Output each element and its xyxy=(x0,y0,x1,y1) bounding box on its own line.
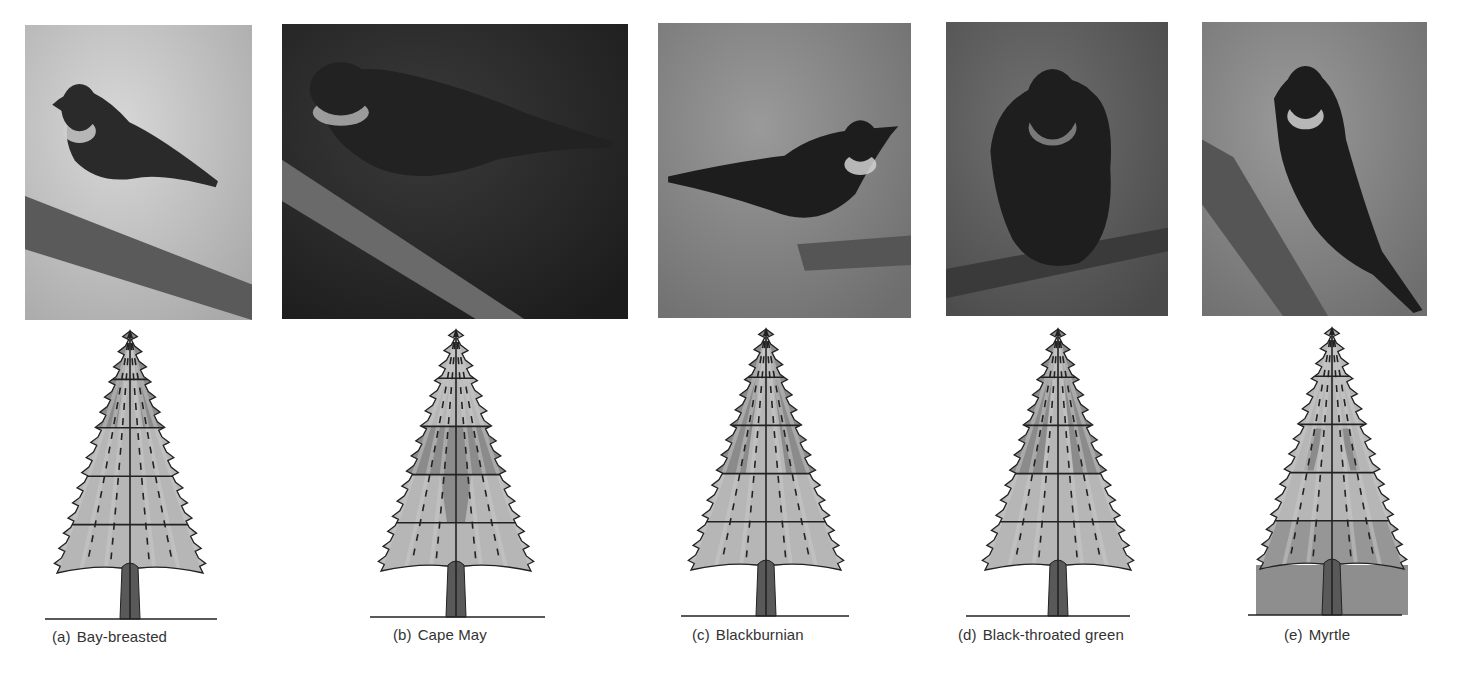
panel-letter: (c) xyxy=(692,626,710,643)
species-name: Bay-breasted xyxy=(77,628,167,645)
warbler-photo-d xyxy=(946,22,1168,316)
panel-letter: (b) xyxy=(393,626,412,643)
feeding-zone-shading xyxy=(371,340,541,571)
height-zone-lines xyxy=(47,379,213,524)
height-zone-lines xyxy=(975,377,1141,522)
panel-b-label: (b)Cape May xyxy=(393,626,487,643)
panel-letter: (a) xyxy=(52,628,71,645)
feeding-zone-shading xyxy=(681,329,851,570)
panel-c-label: (c)Blackburnian xyxy=(692,626,804,643)
feeding-zone-shading xyxy=(1250,338,1414,569)
feeding-zone-shading xyxy=(975,329,1141,570)
panel-letter: (e) xyxy=(1284,626,1303,643)
trunk xyxy=(1048,560,1068,616)
trunk xyxy=(1322,559,1342,615)
panel-letter: (d) xyxy=(958,626,977,643)
trunk xyxy=(756,560,776,616)
panel-e-label: (e)Myrtle xyxy=(1284,626,1350,643)
warbler-photo-c xyxy=(658,23,911,318)
species-name: Myrtle xyxy=(1309,626,1350,643)
panel-a-label: (a)Bay-breasted xyxy=(52,628,167,645)
trunk xyxy=(120,563,140,619)
trunk xyxy=(446,561,466,617)
panel-d-label: (d)Black-throated green xyxy=(958,626,1124,643)
warbler-photo-e xyxy=(1202,22,1427,316)
height-zone-lines xyxy=(371,378,541,523)
feeding-zone-shading xyxy=(47,331,213,573)
height-zone-lines xyxy=(1250,376,1414,521)
height-zone-lines xyxy=(681,377,851,522)
warbler-photo-b xyxy=(282,24,628,319)
ground-feeding-zone xyxy=(1256,565,1408,615)
species-name: Black-throated green xyxy=(983,626,1124,643)
warbler-photo-a xyxy=(25,25,252,320)
species-name: Blackburnian xyxy=(716,626,804,643)
species-name: Cape May xyxy=(418,626,487,643)
